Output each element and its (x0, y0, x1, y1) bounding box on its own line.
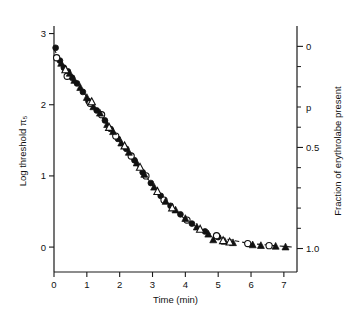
fit-curve (54, 49, 294, 247)
data-markers-group (53, 45, 289, 250)
dark-adaptation-scatter-chart: 01234567012300.51.0pTime (min)Log thresh… (0, 0, 356, 319)
y-tick-label: 0 (41, 242, 46, 253)
axes-group (49, 26, 303, 277)
y2-inline-label: p (306, 102, 311, 113)
y2-tick-label: 0.5 (306, 142, 319, 153)
x-tick-label: 2 (117, 279, 122, 290)
x-tick-label: 5 (216, 279, 221, 290)
y-tick-label: 3 (41, 28, 46, 39)
data-point-open-circle (266, 243, 272, 249)
x-axis-title: Time (min) (153, 294, 198, 305)
x-tick-label: 7 (281, 279, 286, 290)
data-point-filled-circle (53, 45, 59, 51)
data-point-filled-triangle (257, 242, 264, 249)
x-tick-label: 1 (84, 279, 89, 290)
y2-tick-label: 0 (306, 41, 311, 52)
y-tick-label: 1 (41, 170, 46, 181)
x-tick-label: 4 (183, 279, 188, 290)
y2-tick-label: 1.0 (306, 243, 319, 254)
figure-container: 01234567012300.51.0pTime (min)Log thresh… (0, 0, 356, 319)
x-tick-label: 0 (51, 279, 56, 290)
fit-curve-path (54, 49, 294, 247)
data-point-open-circle (54, 55, 60, 61)
x-tick-label: 3 (150, 279, 155, 290)
y-axis-title: Log threshold π₅ (17, 116, 28, 187)
x-tick-label: 6 (248, 279, 253, 290)
y2-axis-title: Fraction of erythrolabe present (332, 86, 343, 216)
y-tick-label: 2 (41, 99, 46, 110)
